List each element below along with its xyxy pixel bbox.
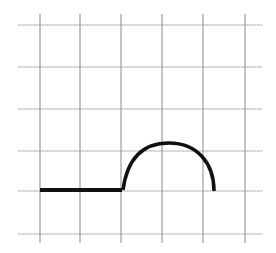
graph-curve [40,143,214,191]
grid-lines [18,14,263,243]
grid-graph-svg [0,0,276,253]
arc-segment [123,143,214,191]
graph-diagram [0,0,276,253]
